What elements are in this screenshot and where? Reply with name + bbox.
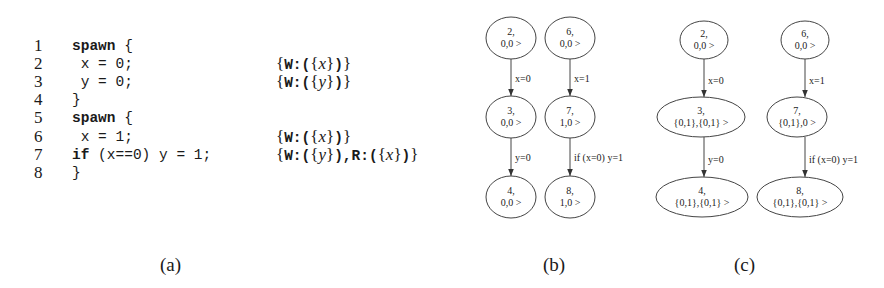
svg-text:x=1: x=1 [574,73,590,84]
svg-text:x=0: x=0 [515,73,531,84]
caption-a: (a) [160,254,181,276]
svg-text:{0,1},{0,1} >: {0,1},{0,1} > [674,117,729,128]
svg-text:x=0: x=0 [708,75,724,86]
svg-text:y=0: y=0 [708,154,724,165]
svg-text:0,0 >: 0,0 > [694,40,715,51]
svg-text:6,: 6, [801,28,809,39]
svg-text:1,0 >: 1,0 > [560,117,581,128]
svg-text:0,0 >: 0,0 > [501,38,522,49]
svg-text:2,: 2, [507,26,515,37]
svg-text:y=0: y=0 [515,152,531,163]
svg-text:0,0 >: 0,0 > [795,40,816,51]
svg-text:4,: 4, [507,185,515,196]
svg-text:8,: 8, [796,185,804,196]
svg-text:x=1: x=1 [809,75,825,86]
svg-text:0,0 >: 0,0 > [501,197,522,208]
svg-text:if (x=0) y=1: if (x=0) y=1 [809,154,858,166]
svg-text:0,0 >: 0,0 > [560,38,581,49]
svg-text:{0,1},{0,1} >: {0,1},{0,1} > [675,197,730,208]
svg-text:{0,1},{0,1} >: {0,1},{0,1} > [773,197,828,208]
svg-text:if (x=0) y=1: if (x=0) y=1 [574,152,623,164]
svg-text:7,: 7, [566,105,574,116]
caption-c: (c) [734,254,755,276]
svg-text:4,: 4, [698,185,706,196]
svg-text:6,: 6, [566,26,574,37]
svg-text:1,0 >: 1,0 > [560,197,581,208]
svg-text:8,: 8, [566,185,574,196]
svg-text:3,: 3, [507,105,515,116]
svg-text:3,: 3, [697,105,705,116]
svg-text:7,: 7, [793,105,801,116]
svg-text:{0,1},0 >: {0,1},0 > [778,117,816,128]
svg-text:2,: 2, [700,28,708,39]
svg-text:0,0 >: 0,0 > [501,117,522,128]
caption-b: (b) [543,254,565,276]
graph-b: 2, 0,0 > 3, 0,0 > 4, 0,0 > 6, 0,0 > 7, 1… [0,0,884,240]
